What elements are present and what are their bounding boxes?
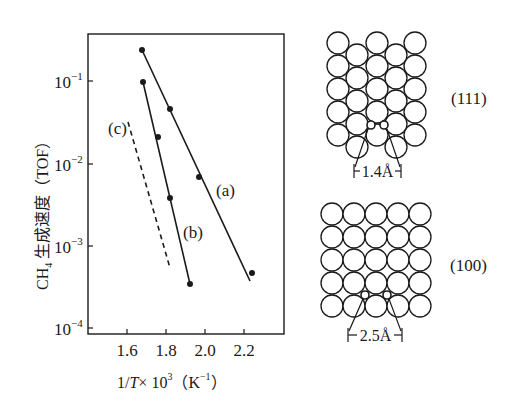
x-axis-tick-labels: 1.6 1.8 2.0 2.2 [116,341,254,360]
atom-column [327,32,349,146]
data-point [139,47,145,53]
atom-row [321,272,431,294]
figure: 10−1 10−2 10−3 10−4 1.6 1.8 2.0 2.2 CH4 … [0,0,514,402]
atom-column [404,32,426,146]
atom-column [385,44,407,158]
series-label-b: (b) [183,223,203,242]
x-axis-title: 1/T× 103（K−1） [117,371,227,391]
atom-row [321,203,431,225]
x-tick-label: 1.8 [155,341,176,360]
y-tick-label: 10−3 [54,235,83,257]
adsorption-site [383,291,391,299]
atom-row [321,249,431,271]
y-tick-label: 10−2 [54,153,83,175]
y-axis-ticks [88,81,93,328]
x-tick-label: 2.2 [233,341,254,360]
x-tick-label: 2.0 [194,341,215,360]
adsorption-site [367,121,375,129]
x-axis-ticks [127,329,244,334]
atom-row [321,295,431,317]
fcc111-surface-diagram [327,32,426,178]
facet-label-100: (100) [450,256,487,275]
x-tick-label: 1.6 [116,341,137,360]
series-c [128,122,170,268]
y-tick-label: 10−4 [54,317,83,339]
fcc100-surface-diagram [321,203,431,342]
atom-column [346,44,368,158]
data-point [167,106,173,112]
chart: 10−1 10−2 10−3 10−4 1.6 1.8 2.0 2.2 CH4 … [34,34,284,391]
data-point [167,195,173,201]
series-label-c: (c) [108,119,127,138]
data-point [187,281,193,287]
facet-label-111: (111) [451,89,487,108]
data-point [249,270,255,276]
data-point [196,174,202,180]
distance-label-111: 1.4Å [362,163,394,180]
series-label-a: (a) [216,181,235,200]
plot-frame [88,34,284,334]
atom-row [321,226,431,248]
distance-label-100: 2.5Å [360,327,392,344]
data-point [155,134,161,140]
y-tick-label: 10−1 [54,70,83,92]
y-axis-tick-labels: 10−1 10−2 10−3 10−4 [54,70,83,339]
data-point [140,79,146,85]
series-a [139,47,255,281]
adsorption-site [361,291,369,299]
y-axis-title: CH4 生成速度（TOF） [34,133,54,290]
adsorption-site [380,121,388,129]
